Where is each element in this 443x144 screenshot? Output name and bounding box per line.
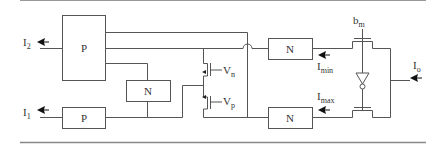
label-n-top: N xyxy=(286,43,294,55)
label-io: Io xyxy=(413,59,421,74)
label-n-bottom: N xyxy=(286,112,294,124)
inverter-icon xyxy=(356,73,369,84)
label-imax: Imax xyxy=(317,90,334,105)
arrow-imin-icon xyxy=(318,51,330,59)
label-vp: Vp xyxy=(223,95,235,110)
arrow-i1-icon xyxy=(37,106,49,114)
label-i1: I1 xyxy=(23,106,31,121)
label-bm: bm xyxy=(353,14,366,29)
label-vn: Vn xyxy=(223,64,235,79)
label-p-top: P xyxy=(81,42,87,54)
arrow-io-icon xyxy=(410,74,422,82)
label-i2: I2 xyxy=(23,36,31,51)
circuit-diagram: P P N N N I2 I1 Vn Vp Imin Imax bm Io xyxy=(0,0,443,144)
label-p-bottom: P xyxy=(81,112,87,124)
arrow-imax-icon xyxy=(318,106,330,114)
label-n-middle: N xyxy=(144,85,152,97)
arrow-i2-icon xyxy=(37,38,49,46)
label-imin: Imin xyxy=(317,60,333,75)
